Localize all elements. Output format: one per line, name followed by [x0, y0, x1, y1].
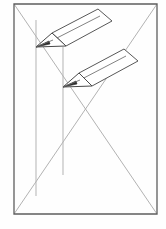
perspective-drawing-canvas: [0, 0, 166, 229]
perspective-drawing-figure: [0, 0, 166, 229]
pencil-lower-right: [63, 49, 138, 87]
pencil-upper-left: [36, 9, 112, 47]
pencil-upper-left-body: [52, 9, 112, 46]
pencil-lower-right-body: [79, 49, 138, 86]
